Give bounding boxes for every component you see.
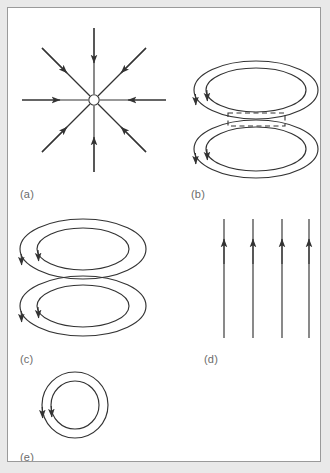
ray-group-northwest (42, 48, 90, 96)
panel-label-e: (e) (20, 451, 34, 462)
figure-root: (a) (b) (c) (d) (e) (0, 0, 330, 473)
panel-b-double-loop-with-dashed-box (194, 61, 318, 178)
loop-arrowheads (195, 90, 207, 164)
panel-label-d: (d) (204, 353, 218, 365)
ray-group-northeast (98, 48, 146, 96)
field-line-diagram (8, 8, 320, 461)
loop-bottom-inner (206, 127, 306, 171)
loop-bottom-outer (194, 120, 318, 178)
panel-label-a: (a) (20, 188, 34, 200)
panel-e-concentric-circular-loops (42, 372, 108, 438)
ray-group-southeast (98, 104, 146, 152)
source-point-circle (89, 95, 99, 105)
loop-c-lower-inner (37, 285, 129, 327)
loop-c-upper-inner (37, 228, 129, 270)
loop-e-inner (51, 381, 99, 429)
panel-c-stacked-loop-pairs (20, 219, 146, 336)
loop-top-inner (206, 68, 306, 112)
panel-label-c: (c) (20, 353, 33, 365)
figure-plate: (a) (b) (c) (d) (e) (7, 7, 321, 462)
panel-d-uniform-parallel-field (224, 219, 309, 338)
panel-a-radial-converging-field (22, 28, 166, 172)
loop-top-outer (194, 61, 318, 119)
ray-group-southwest (42, 104, 90, 152)
loop-e-outer (42, 372, 108, 438)
panel-label-b: (b) (191, 188, 205, 200)
